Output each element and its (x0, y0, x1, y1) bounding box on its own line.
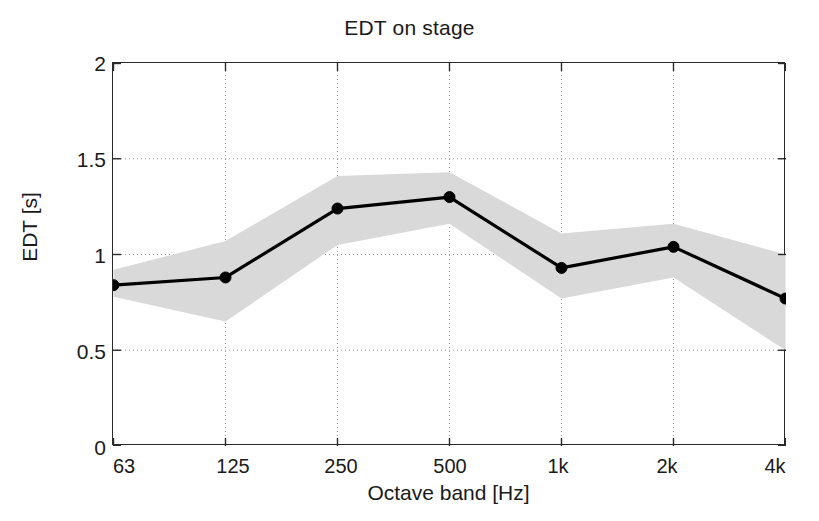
chart-figure: EDT on stage EDT [s] 0 0.5 1 1.5 2 63 12… (0, 0, 819, 521)
y-axis-label: EDT [s] (18, 137, 42, 317)
y-axis-tick-labels: 0 0.5 1 1.5 2 (54, 0, 106, 521)
plot-area (112, 62, 785, 445)
y-axis-label-container: EDT [s] (0, 0, 60, 521)
x-tick-label-1k: 1k (547, 455, 568, 478)
chart-title: EDT on stage (0, 16, 819, 40)
x-tick-label-4k: 4k (764, 455, 785, 478)
x-tick-label-125: 125 (216, 455, 249, 478)
y-tick-label-2: 2 (60, 53, 106, 74)
x-tick-label-250: 250 (324, 455, 357, 478)
y-tick-label-1_5: 1.5 (60, 149, 106, 170)
x-axis-label: Octave band [Hz] (112, 481, 785, 505)
x-tick-label-2k: 2k (656, 455, 677, 478)
x-tick-label-500: 500 (433, 455, 466, 478)
y-tick-label-1: 1 (60, 245, 106, 266)
x-tick-label-63: 63 (113, 455, 135, 478)
plot-canvas (113, 63, 786, 446)
y-tick-label-0_5: 0.5 (60, 341, 106, 362)
